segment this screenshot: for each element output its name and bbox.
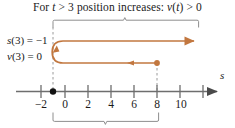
dashed-guide-lines <box>53 27 157 91</box>
number-line-axis <box>16 85 217 98</box>
tick-label-10: 10 <box>175 98 187 110</box>
tick-label-2: 2 <box>85 98 91 110</box>
top-bracket <box>53 18 199 28</box>
tick-label-0: 0 <box>62 98 68 110</box>
tick-label-minus-2: −2 <box>35 98 47 110</box>
position-point-marker <box>50 88 56 94</box>
bottom-bracket <box>53 113 159 125</box>
tick-label-6: 6 <box>131 98 137 110</box>
position-number-line-figure: For t > 3 position increases: v(t) > 0 s… <box>0 0 235 128</box>
motion-path <box>52 41 194 66</box>
tick-label-4: 4 <box>108 98 114 110</box>
tick-label-8: 8 <box>154 98 160 110</box>
left-arrowhead-mid <box>127 60 134 65</box>
start-point-marker <box>154 60 160 66</box>
